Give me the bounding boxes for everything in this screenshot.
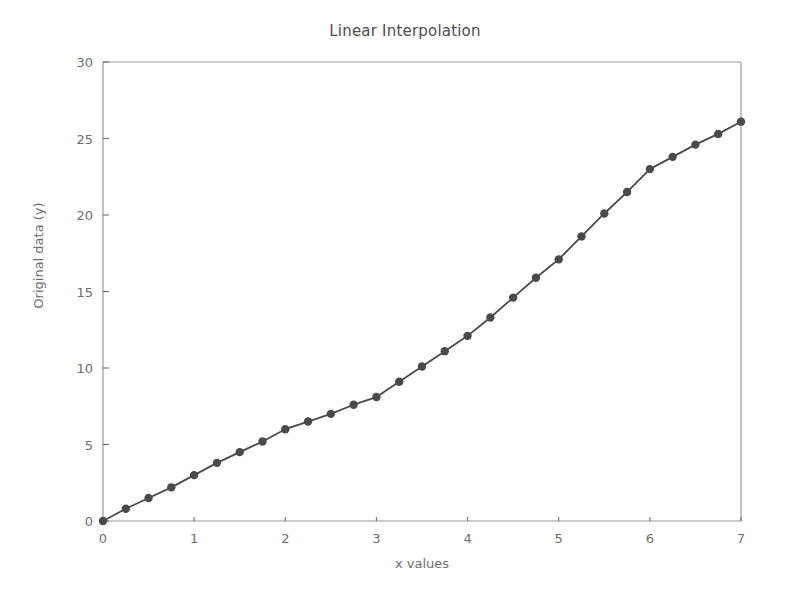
- chart-page: Linear Interpolation Original data (y) x…: [0, 0, 810, 600]
- data-point: [144, 494, 152, 502]
- plot-background: [103, 62, 741, 521]
- data-point: [99, 517, 107, 525]
- data-point: [122, 505, 130, 513]
- data-point: [327, 410, 335, 418]
- data-point: [418, 362, 426, 370]
- data-point: [737, 117, 745, 125]
- x-tick-label: 4: [463, 531, 471, 546]
- x-tick-label: 2: [281, 531, 289, 546]
- data-point: [577, 232, 585, 240]
- x-tick-label: 3: [372, 531, 380, 546]
- data-point: [349, 401, 357, 409]
- data-point: [509, 293, 517, 301]
- data-point: [555, 255, 563, 263]
- data-point: [532, 274, 540, 282]
- y-tick-label: 15: [76, 285, 93, 300]
- data-point: [372, 393, 380, 401]
- x-tick-label: 7: [737, 531, 745, 546]
- data-point: [190, 471, 198, 479]
- data-point: [600, 209, 608, 217]
- x-tick-label: 0: [99, 531, 107, 546]
- y-tick-label: 10: [76, 361, 93, 376]
- y-tick-label: 25: [76, 132, 93, 147]
- y-tick-label: 20: [76, 208, 93, 223]
- x-tick-label: 6: [646, 531, 654, 546]
- data-point: [304, 417, 312, 425]
- data-point: [646, 165, 654, 173]
- x-tick-label: 1: [190, 531, 198, 546]
- data-point: [441, 347, 449, 355]
- data-point: [167, 483, 175, 491]
- y-tick-label: 30: [76, 55, 93, 70]
- y-tick-label: 5: [85, 438, 93, 453]
- plot-area: 01234567 051015202530: [0, 0, 810, 600]
- data-point: [486, 313, 494, 321]
- data-point: [236, 448, 244, 456]
- data-point: [395, 378, 403, 386]
- data-point: [463, 332, 471, 340]
- y-tick-label: 0: [85, 514, 93, 529]
- x-tick-label: 5: [555, 531, 563, 546]
- data-point: [623, 188, 631, 196]
- data-point: [691, 140, 699, 148]
- data-point: [213, 459, 221, 467]
- data-point: [714, 130, 722, 138]
- data-point: [281, 425, 289, 433]
- data-point: [258, 437, 266, 445]
- data-point: [668, 153, 676, 161]
